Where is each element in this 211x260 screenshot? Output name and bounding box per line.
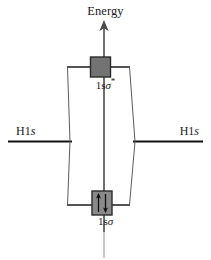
orbital-label-bonding: 1sσ (0, 216, 211, 227)
atomic-label-left: H1s (16, 125, 35, 137)
atomic-right-orbital: s (194, 124, 199, 138)
energy-axis-label: Energy (0, 5, 211, 18)
bonding-label-prefix: 1s (98, 215, 108, 227)
bonding-label-sigma: σ (108, 215, 113, 227)
mo-diagram-canvas: Energy 1sσ* 1sσ H1s H1s (0, 0, 211, 260)
correlation-line-left-lower (68, 142, 71, 206)
atomic-left-orbital: s (31, 124, 36, 138)
atomic-right-prefix: H1 (180, 124, 195, 138)
antibonding-label-star: * (111, 76, 116, 86)
correlation-line-right-lower (130, 142, 136, 206)
orbital-label-antibonding: 1sσ* (0, 80, 211, 91)
orbital-box-antibonding (91, 57, 111, 77)
atomic-left-prefix: H1 (16, 124, 31, 138)
correlation-line-left-upper (68, 67, 71, 142)
correlation-line-right-upper (130, 67, 136, 142)
antibonding-label-prefix: 1s (96, 79, 106, 91)
atomic-label-right: H1s (180, 125, 199, 137)
orbital-box-bonding (92, 191, 112, 215)
